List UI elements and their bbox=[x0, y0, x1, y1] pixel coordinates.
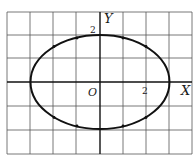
origin-label: O bbox=[88, 86, 97, 99]
y-axis-label: Y bbox=[104, 11, 114, 26]
ellipse-plot: Y 2 O 2 X bbox=[0, 0, 196, 163]
axes bbox=[7, 12, 192, 154]
x-axis-label: X bbox=[180, 83, 191, 98]
y-tick-label: 2 bbox=[90, 25, 96, 35]
x-tick-label: 2 bbox=[142, 86, 148, 96]
